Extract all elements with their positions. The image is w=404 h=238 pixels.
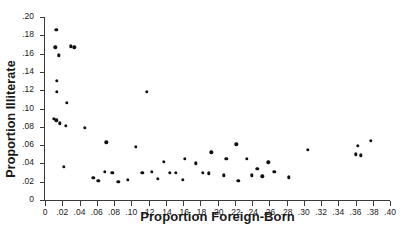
data-point xyxy=(97,179,100,182)
y-tick-label: .08 xyxy=(22,121,34,131)
data-point xyxy=(103,170,106,173)
x-tick-label: .12 xyxy=(143,207,155,217)
data-point xyxy=(141,171,144,174)
data-point xyxy=(267,161,270,164)
y-tick-label: .18 xyxy=(22,29,34,39)
y-tick: .06 xyxy=(40,145,45,146)
data-point xyxy=(162,160,165,163)
x-tick xyxy=(321,201,322,206)
x-tick-label: .18 xyxy=(194,207,206,217)
x-tick-label: .20 xyxy=(212,207,224,217)
data-point xyxy=(183,157,186,160)
y-tick-label: 0 xyxy=(29,194,34,204)
y-tick: .10 xyxy=(40,109,45,110)
data-point xyxy=(55,79,58,82)
x-tick-label: .26 xyxy=(263,207,275,217)
x-tick xyxy=(114,201,115,206)
y-tick-label: .12 xyxy=(22,84,34,94)
data-point xyxy=(222,174,225,177)
data-point xyxy=(245,157,248,160)
x-tick xyxy=(269,201,270,206)
x-tick-label: .08 xyxy=(108,207,120,217)
data-point xyxy=(111,171,114,174)
data-point xyxy=(126,178,129,181)
x-tick-label: .02 xyxy=(56,207,68,217)
y-tick-label: .20 xyxy=(22,11,34,21)
data-point xyxy=(134,145,137,148)
x-tick-label: .36 xyxy=(350,207,362,217)
x-tick xyxy=(45,201,46,206)
x-tick-label: .40 xyxy=(384,207,396,217)
data-point xyxy=(156,177,159,180)
data-point xyxy=(194,162,197,165)
x-tick xyxy=(131,201,132,206)
x-tick-label: 0 xyxy=(43,207,48,217)
y-tick-label: .10 xyxy=(22,103,34,113)
x-tick-label: .38 xyxy=(367,207,379,217)
data-point xyxy=(354,153,357,156)
y-tick: .16 xyxy=(40,54,45,55)
data-point xyxy=(224,157,227,160)
x-tick xyxy=(338,201,339,206)
x-tick xyxy=(252,201,253,206)
x-tick-label: .06 xyxy=(91,207,103,217)
y-tick-label: .14 xyxy=(22,66,34,76)
y-tick: .02 xyxy=(40,182,45,183)
y-tick-label: .16 xyxy=(22,48,34,58)
y-tick: .12 xyxy=(40,90,45,91)
x-tick xyxy=(235,201,236,206)
data-point xyxy=(54,45,57,48)
data-point xyxy=(210,151,213,154)
data-point xyxy=(174,171,177,174)
x-tick-label: .14 xyxy=(160,207,172,217)
data-point xyxy=(255,167,258,170)
data-point xyxy=(55,28,58,31)
data-point xyxy=(62,165,65,168)
x-tick xyxy=(218,201,219,206)
data-point xyxy=(105,141,108,144)
data-point xyxy=(369,139,372,142)
x-tick-label: .22 xyxy=(229,207,241,217)
data-point xyxy=(64,124,67,127)
data-point xyxy=(92,176,95,179)
y-tick: .20 xyxy=(40,17,45,18)
x-tick xyxy=(62,201,63,206)
data-point xyxy=(73,45,76,48)
x-tick xyxy=(287,201,288,206)
x-tick-label: .04 xyxy=(74,207,86,217)
x-tick xyxy=(200,201,201,206)
x-tick-label: .10 xyxy=(125,207,137,217)
scatter-plot-figure: Proportion Illiterate Proportion Foreign… xyxy=(0,0,404,238)
data-point xyxy=(150,170,153,173)
x-tick xyxy=(80,201,81,206)
x-tick xyxy=(183,201,184,206)
data-point xyxy=(359,153,362,156)
y-tick-label: .02 xyxy=(22,176,34,186)
data-point xyxy=(83,126,86,129)
data-point xyxy=(117,180,120,183)
data-point xyxy=(207,172,210,175)
data-point xyxy=(58,121,61,124)
y-tick: .08 xyxy=(40,127,45,128)
data-point xyxy=(235,142,238,145)
data-point xyxy=(65,101,68,104)
y-tick: .14 xyxy=(40,72,45,73)
x-tick-label: .16 xyxy=(177,207,189,217)
data-point xyxy=(287,175,290,178)
x-tick-label: .28 xyxy=(281,207,293,217)
x-tick-label: .24 xyxy=(246,207,258,217)
y-tick: .04 xyxy=(40,163,45,164)
y-tick: .18 xyxy=(40,35,45,36)
data-point xyxy=(181,178,184,181)
data-point xyxy=(261,175,264,178)
x-tick-label: .32 xyxy=(315,207,327,217)
data-point xyxy=(57,54,60,57)
data-point xyxy=(250,174,253,177)
data-point xyxy=(273,170,276,173)
x-tick xyxy=(356,201,357,206)
y-tick-label: .04 xyxy=(22,157,34,167)
x-tick-label: .34 xyxy=(332,207,344,217)
data-point xyxy=(168,171,171,174)
x-tick xyxy=(390,201,391,206)
data-point xyxy=(236,179,239,182)
